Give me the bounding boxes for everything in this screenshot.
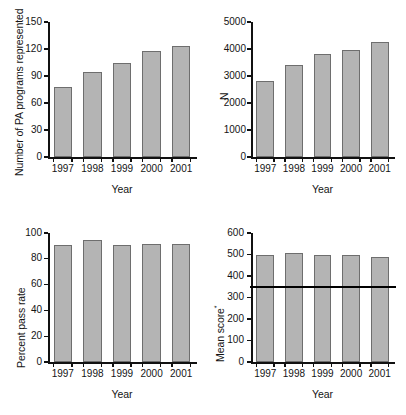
x-axis-tick-label: 1999 — [308, 368, 337, 379]
y-axis-tick — [247, 340, 251, 341]
x-axis-tick — [313, 363, 314, 367]
x-axis-tick — [388, 363, 389, 367]
y-axis-tick — [247, 361, 251, 362]
x-axis-tick — [284, 363, 285, 367]
x-axis-tick — [342, 363, 343, 367]
panel-meanscore: 010020030040050060019971998199920002001M… — [0, 0, 406, 415]
bar-1998 — [285, 253, 303, 362]
x-axis-tick-label: 2000 — [337, 368, 366, 379]
x-axis-tick — [331, 363, 332, 367]
y-axis-tick — [247, 232, 251, 233]
bar-2000 — [342, 255, 360, 362]
x-axis-tick-label: 1997 — [251, 368, 280, 379]
y-axis-tick — [247, 254, 251, 255]
y-axis-line — [251, 233, 253, 363]
y-axis-title: Mean score* — [213, 306, 226, 362]
y-axis-tick — [247, 318, 251, 319]
x-axis-tick — [359, 363, 360, 367]
y-axis-tick-label: 300 — [216, 291, 244, 302]
y-axis-title-footnote-marker: * — [213, 306, 220, 309]
y-axis-tick — [247, 275, 251, 276]
x-axis-title: Year — [251, 388, 394, 400]
bar-2001 — [371, 257, 389, 362]
bar-1997 — [256, 255, 274, 362]
y-axis-tick — [247, 297, 251, 298]
y-axis-tick-label: 400 — [216, 270, 244, 281]
x-axis-tick — [370, 363, 371, 367]
x-axis-tick-label: 1998 — [280, 368, 309, 379]
x-axis-tick — [302, 363, 303, 367]
bar-1999 — [314, 255, 332, 362]
passing-score-reference-line — [250, 286, 396, 289]
y-axis-title-text: Mean score — [214, 308, 226, 362]
y-axis-tick-label: 600 — [216, 227, 244, 238]
x-axis-tick-label: 2001 — [365, 368, 394, 379]
y-axis-tick-label: 500 — [216, 248, 244, 259]
x-axis-tick — [273, 363, 274, 367]
x-axis-tick — [256, 363, 257, 367]
figure-four-panel-bar-charts: 030609012015019971998199920002001Number … — [0, 0, 406, 415]
